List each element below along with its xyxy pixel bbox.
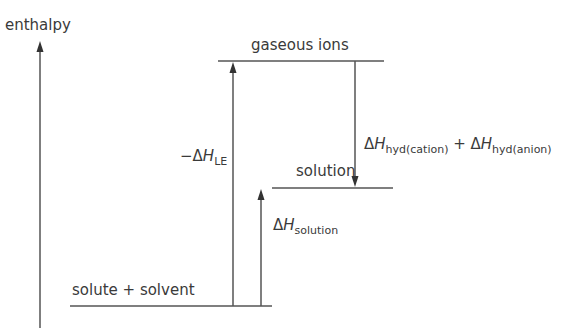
subscript-cation: hyd(cation) [386, 143, 449, 156]
enthalpy-symbol: H [203, 147, 214, 165]
solution-arrowhead-icon [258, 189, 265, 200]
label-gaseous-ions: gaseous ions [251, 38, 349, 53]
label-hydration-enthalpy: ΔHhyd(cation) + ΔHhyd(anion) [364, 137, 552, 152]
delta-prefix: −Δ [180, 147, 203, 165]
label-solution-enthalpy: ΔHsolution [273, 218, 338, 233]
subscript-anion: hyd(anion) [492, 143, 552, 156]
plus-sign: + [448, 135, 470, 153]
delta-prefix: Δ [364, 135, 374, 153]
delta-prefix: Δ [471, 135, 481, 153]
delta-prefix: Δ [273, 216, 283, 234]
subscript: LE [214, 155, 227, 168]
enthalpy-symbol: H [283, 216, 294, 234]
lattice-arrowhead-icon [230, 62, 237, 73]
enthalpy-diagram: enthalpy gaseous ions solution solute + … [0, 0, 575, 328]
axis-arrowhead-icon [37, 41, 44, 52]
subscript: solution [295, 224, 339, 237]
enthalpy-symbol: H [481, 135, 492, 153]
label-lattice-energy: −ΔHLE [180, 149, 227, 164]
label-solution: solution [296, 164, 355, 179]
label-solute-solvent: solute + solvent [72, 283, 195, 298]
enthalpy-symbol: H [374, 135, 385, 153]
axis-label: enthalpy [5, 18, 71, 33]
